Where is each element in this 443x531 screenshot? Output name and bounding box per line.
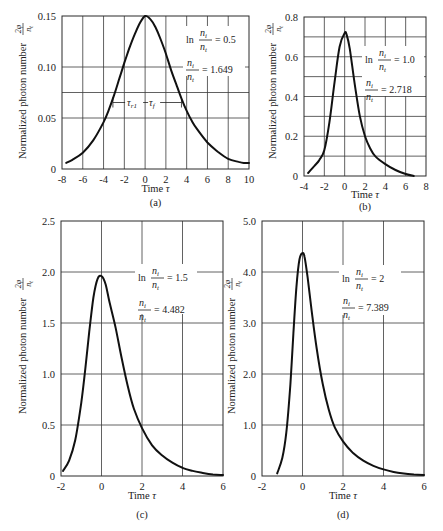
- x-tick-label: -2: [120, 174, 129, 185]
- x-tick-label: 0: [300, 481, 305, 492]
- panel-caption: (a): [150, 197, 162, 209]
- y-tick-label: 0: [50, 471, 55, 482]
- y-tick-label: 0.5: [42, 420, 55, 431]
- ratio-annotation: lnnint= 1.0nint= 2.718: [362, 46, 424, 104]
- ln-ratio-value: = 0.5: [215, 34, 236, 45]
- y-tick-label: 2.5: [42, 216, 55, 227]
- y-tick-labels: 00.51.01.52.02.5: [42, 216, 55, 482]
- x-tick-label: -2: [258, 481, 267, 492]
- x-axis-label: Time τ: [329, 490, 358, 501]
- ln-label: ln: [186, 34, 194, 45]
- y-tick-label: 0.05: [38, 113, 56, 124]
- ylabel-fraction-denominator: nt: [233, 281, 243, 287]
- grid-lines: [304, 17, 426, 176]
- x-tick-label: 6: [205, 174, 210, 185]
- x-tick-label: 0: [342, 181, 347, 192]
- y-tick-label: 3.0: [243, 318, 256, 329]
- y-tick-label: 0.4: [285, 92, 299, 103]
- y-tick-labels: 01.02.03.04.05.0: [243, 216, 256, 482]
- ylabel-fraction-denominator: nt: [274, 26, 284, 32]
- svg-text:Normalized photon number: Normalized photon number: [17, 42, 28, 159]
- ylabel-fraction-numerator: 2φ: [14, 24, 23, 33]
- ratio-annotation: lnnint= 2nint= 7.389: [339, 265, 401, 322]
- x-tick-label: -4: [99, 174, 108, 185]
- y-tick-label: 2.0: [42, 267, 55, 278]
- x-tick-label: -6: [78, 174, 87, 185]
- ratio-value: = 7.389: [358, 302, 389, 313]
- y-tick-label: 1.0: [42, 369, 55, 380]
- x-tick-label: -2: [320, 181, 329, 192]
- y-tick-labels: 00.20.40.60.8: [285, 12, 299, 182]
- x-axis-label: Time τ: [128, 490, 157, 501]
- panel-caption: (b): [359, 201, 372, 213]
- y-tick-label: 2.0: [243, 369, 256, 380]
- y-tick-label: 1.5: [42, 318, 55, 329]
- x-tick-label: 8: [423, 181, 428, 192]
- x-tick-label: -8: [58, 174, 67, 185]
- ratio-value: = 2.718: [381, 84, 412, 95]
- ylabel-fraction-numerator: 2φ: [223, 279, 232, 288]
- y-tick-labels: 00.050.100.15: [38, 11, 56, 175]
- ratio-value: = 4.482: [154, 304, 185, 315]
- chart-panel-c: -2024600.51.01.52.02.5Time τNormalized p…: [14, 216, 226, 521]
- y-axis-label: Normalized photon number2φnt: [14, 23, 34, 159]
- chart-panel-a: -8-6-4-2024681000.050.100.15Time τNormal…: [14, 11, 254, 209]
- x-axis-label: Time τ: [351, 189, 380, 200]
- x-tick-label: 6: [421, 481, 426, 492]
- y-tick-label: 0.8: [285, 12, 298, 23]
- y-tick-label: 0: [251, 471, 256, 482]
- x-tick-label: 4: [383, 181, 389, 192]
- x-tick-label: -4: [300, 181, 309, 192]
- x-tick-label: 10: [244, 174, 255, 185]
- x-axis-label: Time τ: [141, 183, 170, 194]
- ratio-annotation: lnnint= 1.5nint= 4.482: [135, 264, 197, 324]
- y-tick-label: 0.2: [285, 131, 298, 142]
- ln-ratio-value: = 2: [371, 273, 384, 284]
- x-tick-label: 4: [184, 174, 190, 185]
- y-tick-label: 1.0: [243, 420, 256, 431]
- ylabel-fraction-numerator: 2φ: [14, 279, 23, 288]
- ylabel-fraction-numerator: 2φ: [264, 24, 273, 33]
- ln-label: ln: [365, 54, 373, 65]
- figure-canvas: -8-6-4-2024681000.050.100.15Time τNormal…: [0, 0, 443, 531]
- y-tick-label: 0.10: [38, 62, 56, 73]
- ylabel-fraction-denominator: nt: [24, 26, 34, 32]
- grid-lines: [61, 221, 223, 476]
- svg-text:Normalized photon number: Normalized photon number: [267, 42, 278, 159]
- x-tick-label: 4: [381, 481, 387, 492]
- ratio-value: = 1.649: [202, 64, 233, 75]
- chart-panel-b: -4-20246800.20.40.60.8Time τNormalized p…: [264, 12, 429, 213]
- pulse-width-marker: τr1τf: [113, 96, 182, 110]
- y-tick-label: 0: [51, 164, 56, 175]
- chart-panel-d: -2024601.02.03.04.05.0Time τNormalized p…: [223, 216, 427, 521]
- panel-caption: (d): [337, 509, 350, 521]
- ln-ratio-value: = 1.5: [167, 272, 188, 283]
- svg-text:Normalized photon number: Normalized photon number: [17, 297, 28, 414]
- x-tick-label: 0: [99, 481, 104, 492]
- x-tick-label: 6: [220, 481, 225, 492]
- y-axis-label: Normalized photon number2φnt: [223, 278, 243, 414]
- ln-ratio-value: = 1.0: [394, 54, 415, 65]
- panel-caption: (c): [136, 509, 148, 521]
- ln-label: ln: [138, 272, 146, 283]
- ratio-annotation: lnnint= 0.5nint= 1.649: [183, 26, 245, 84]
- y-axis-label: Normalized photon number2φnt: [264, 23, 284, 159]
- x-tick-label: 4: [180, 481, 186, 492]
- ylabel-fraction-denominator: nt: [24, 281, 34, 287]
- ln-label: ln: [342, 273, 350, 284]
- y-axis-label: Normalized photon number2φnt: [14, 278, 34, 414]
- y-tick-label: 0.6: [285, 52, 298, 63]
- x-tick-label: 6: [403, 181, 408, 192]
- svg-text:Normalized photon number: Normalized photon number: [226, 297, 237, 414]
- y-tick-label: 4.0: [243, 267, 256, 278]
- x-tick-label: 8: [226, 174, 231, 185]
- x-tick-label: -2: [57, 481, 66, 492]
- y-tick-label: 0: [293, 171, 298, 182]
- y-tick-label: 0.15: [38, 11, 56, 22]
- y-tick-label: 5.0: [243, 216, 256, 227]
